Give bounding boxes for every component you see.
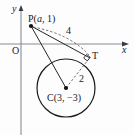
segment-ct-radius — [66, 60, 88, 88]
point-label-p: P(a, 1) — [28, 14, 55, 24]
point-label-p-prefix: P( — [28, 13, 37, 24]
x-axis-label: x — [122, 45, 126, 55]
geometry-figure: y x O P(a, 1) T C(3, −3) 4 2 — [0, 0, 134, 135]
point-label-c: C(3, −3) — [47, 93, 81, 103]
y-axis-label: y — [12, 4, 16, 14]
length-label-pt: 4 — [66, 26, 71, 36]
figure-canvas — [0, 0, 134, 135]
y-axis-arrowhead — [19, 5, 24, 11]
point-marker-c — [64, 86, 68, 90]
origin-label: O — [12, 46, 19, 56]
point-label-t: T — [92, 51, 98, 61]
point-label-p-suffix: , 1) — [42, 13, 55, 24]
point-marker-p — [29, 24, 33, 28]
length-label-ct: 2 — [79, 74, 84, 84]
